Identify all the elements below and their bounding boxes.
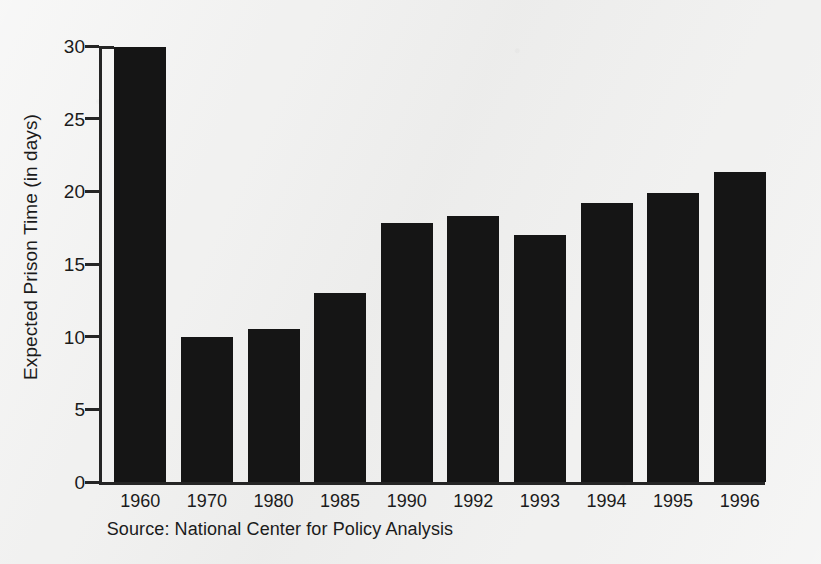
y-axis-tick-label: 15: [39, 255, 85, 274]
y-axis-tick-label: 5: [39, 400, 85, 419]
x-axis-tick-label: 1993: [507, 492, 573, 510]
bar: [114, 47, 166, 482]
bar: [248, 329, 300, 482]
x-axis-tick-label: 1990: [374, 492, 440, 510]
plot-area: 051015202530 196019701980198519901992199…: [99, 46, 765, 482]
y-axis-tick-label: 20: [39, 182, 85, 201]
y-axis-tick-labels: 051015202530: [33, 46, 85, 482]
x-axis-tick-label: 1996: [707, 492, 773, 510]
chart-page: Expected Prison Time (in days) 051015202…: [0, 0, 821, 564]
y-axis-tick-label: 10: [39, 327, 85, 346]
y-axis-tick-mark: [85, 263, 99, 266]
y-axis-tick-mark: [85, 190, 99, 193]
y-axis-tick-mark: [85, 45, 99, 48]
x-axis-tick-label: 1970: [174, 492, 240, 510]
bar: [447, 216, 499, 482]
bar: [514, 235, 566, 482]
y-axis-tick-mark: [85, 335, 99, 338]
source-caption: Source: National Center for Policy Analy…: [0, 519, 560, 540]
bar: [314, 293, 366, 482]
bar: [647, 193, 699, 482]
y-axis-tick-mark: [85, 481, 99, 484]
y-axis-line: [99, 46, 102, 482]
bar: [714, 172, 766, 482]
y-axis-tick-label: 25: [39, 109, 85, 128]
bar: [181, 337, 233, 482]
bar: [581, 203, 633, 482]
y-axis-tick-mark: [85, 117, 99, 120]
x-axis-tick-label: 1994: [574, 492, 640, 510]
x-axis-line: [99, 482, 765, 485]
x-axis-tick-label: 1985: [307, 492, 373, 510]
y-axis-tick-mark: [85, 408, 99, 411]
y-axis-top-cap: [99, 46, 114, 49]
x-axis-tick-label: 1960: [107, 492, 173, 510]
x-axis-tick-label: 1980: [241, 492, 307, 510]
bar: [381, 223, 433, 482]
x-axis-tick-label: 1992: [440, 492, 506, 510]
x-axis-tick-label: 1995: [640, 492, 706, 510]
y-axis-tick-label: 30: [39, 37, 85, 56]
y-axis-tick-label: 0: [39, 473, 85, 492]
